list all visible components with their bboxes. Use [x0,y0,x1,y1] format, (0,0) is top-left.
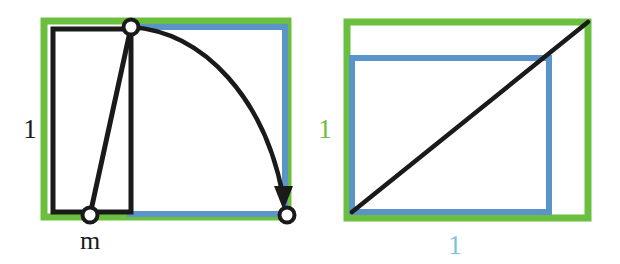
geometry-figure: 1 m 1 1 [0,0,620,264]
right-width-label-one: 1 [448,230,462,260]
left-height-label-one: 1 [23,114,37,144]
left-black-rectangle [53,29,131,212]
figure-root: 1 m 1 1 [0,0,620,264]
left-m-node-icon [83,208,98,223]
right-height-label-one: 1 [318,114,332,144]
left-panel: 1 m [23,20,294,255]
left-arrow-target-node-icon [280,208,295,223]
left-apex-node-icon [124,20,139,35]
left-base-label-m: m [80,226,100,255]
